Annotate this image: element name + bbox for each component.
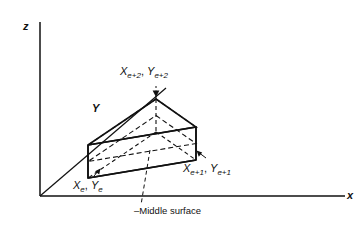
node-e2-x-sub: e+2 bbox=[127, 71, 141, 80]
x-axis-label: x bbox=[347, 190, 353, 201]
diagram-svg bbox=[0, 0, 362, 227]
middle-surface-text: Middle surface bbox=[139, 205, 201, 216]
node-label-e2: Xe+2, Ye+2 bbox=[120, 66, 168, 77]
node-e-y-sub: e bbox=[98, 185, 102, 194]
middle-surface-annotation: –Middle surface bbox=[134, 206, 201, 216]
node-e1-y-sub: e+1 bbox=[217, 168, 231, 177]
node-e-x-sub: e bbox=[80, 185, 84, 194]
middle-surface-triangle bbox=[88, 116, 196, 162]
node-label-e: Xe, Ye bbox=[73, 180, 103, 191]
wedge-bottom-right-edge-hidden bbox=[156, 132, 196, 160]
node-e2-y-sub: e+2 bbox=[154, 71, 168, 80]
node-e1-x-sub: e+1 bbox=[190, 168, 204, 177]
wedge-element bbox=[88, 99, 196, 178]
y-axis-label: Y bbox=[92, 103, 99, 114]
figure-canvas: z x Y Xe+2, Ye+2 Xe+1, Ye+1 Xe, Ye –Midd… bbox=[0, 0, 362, 227]
wedge-top-face bbox=[88, 99, 196, 145]
middle-surface bbox=[88, 116, 196, 162]
z-axis-label: z bbox=[23, 21, 29, 32]
node-label-e1: Xe+1, Ye+1 bbox=[183, 163, 231, 174]
wedge-bottom-front-edge bbox=[88, 160, 196, 178]
node-e1-arrow-head bbox=[197, 151, 203, 157]
